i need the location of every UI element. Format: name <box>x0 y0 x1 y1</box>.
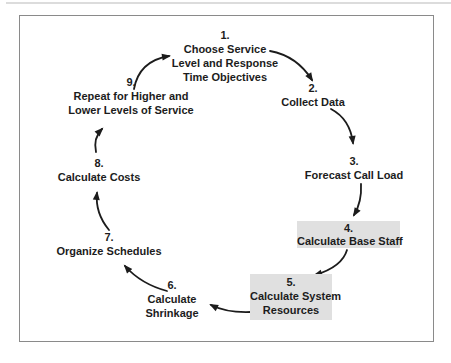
step-number: 7. <box>56 230 161 244</box>
step-label-line: Choose Service <box>172 42 278 56</box>
arrow-5-to-6 <box>211 305 251 312</box>
step-number: 4. <box>297 222 400 235</box>
arrow-7-to-8 <box>97 193 109 230</box>
step-number: 1. <box>172 28 278 42</box>
step-label-line: Calculate Base Staff <box>297 235 400 248</box>
diagram-canvas: 1. Choose Service Level and Response Tim… <box>0 0 451 363</box>
arrow-4-to-5 <box>315 250 347 275</box>
arrow-8-to-9 <box>95 129 102 152</box>
step-label-line: Level and Response <box>172 56 278 70</box>
step-number: 6. <box>145 278 198 292</box>
step-8-calculate-costs: 8. Calculate Costs <box>58 156 141 184</box>
step-label-line: Collect Data <box>281 95 345 109</box>
step-label-line: Calculate <box>145 292 198 306</box>
step-2-collect-data: 2. Collect Data <box>281 81 345 109</box>
step-6-calculate-shrinkage: 6. Calculate Shrinkage <box>145 278 198 320</box>
arrow-2-to-3 <box>331 109 353 143</box>
arrow-3-to-4 <box>354 184 361 215</box>
step-number: 2. <box>281 81 345 95</box>
step-label-line: Shrinkage <box>145 306 198 320</box>
step-number: 8. <box>58 156 141 170</box>
step-label-line: Lower Levels of Service <box>68 103 193 117</box>
step-label-line: Repeat for Higher and <box>68 89 193 103</box>
step-number: 5. <box>250 275 332 289</box>
step-9-repeat-levels: 9. Repeat for Higher and Lower Levels of… <box>68 75 193 117</box>
step-3-forecast-call-load: 3. Forecast Call Load <box>305 154 403 182</box>
step-label-line: Organize Schedules <box>56 244 161 258</box>
step-5-calculate-system-resources: 5. Calculate System Resources <box>250 274 332 320</box>
step-number: 9. <box>68 75 193 89</box>
step-label-line: Calculate System <box>250 289 332 303</box>
step-label-line: Calculate Costs <box>58 170 141 184</box>
step-4-calculate-base-staff: 4. Calculate Base Staff <box>297 221 400 248</box>
step-label-line: Forecast Call Load <box>305 168 403 182</box>
step-label-line: Resources <box>250 303 332 317</box>
step-7-organize-schedules: 7. Organize Schedules <box>56 230 161 258</box>
step-number: 3. <box>305 154 403 168</box>
